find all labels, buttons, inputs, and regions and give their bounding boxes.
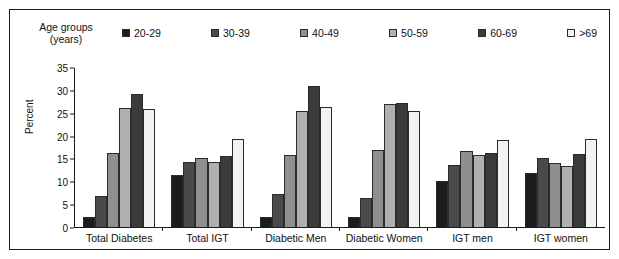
legend-title: Age groups (years) — [10, 21, 122, 45]
bar — [585, 139, 597, 227]
bar — [119, 108, 131, 227]
legend-item: 60-69 — [478, 27, 517, 39]
bar — [131, 94, 143, 227]
x-axis-group-tick — [162, 227, 163, 231]
bar — [525, 173, 537, 227]
x-axis-category-label: Total Diabetes — [75, 232, 163, 248]
bar — [220, 156, 232, 227]
bar — [384, 104, 396, 227]
x-axis-category-label: Diabetic Men — [252, 232, 340, 248]
bar-chart-figure: Age groups (years) 20-2930-3940-4950-596… — [0, 0, 619, 259]
bar — [183, 162, 195, 227]
x-axis-category-label: IGT men — [428, 232, 516, 248]
legend-item: >69 — [567, 27, 597, 39]
y-tick-label: 25 — [57, 108, 68, 119]
bar-group-bars — [436, 68, 508, 227]
legend-item-label: 40-49 — [312, 27, 339, 39]
axes — [74, 68, 605, 228]
x-axis-category-label: IGT women — [517, 232, 605, 248]
bar-group — [517, 68, 605, 227]
bar — [436, 181, 448, 227]
y-tick-label: 10 — [57, 177, 68, 188]
bar — [232, 139, 244, 227]
bar — [143, 109, 155, 227]
legend-item-label: 50-59 — [401, 27, 428, 39]
bar — [171, 175, 183, 227]
legend-swatch-icon — [300, 29, 308, 37]
legend-item: 40-49 — [300, 27, 339, 39]
y-tick-label: 20 — [57, 131, 68, 142]
legend-item-label: 60-69 — [490, 27, 517, 39]
bar — [208, 162, 220, 227]
bar — [284, 155, 296, 227]
x-axis-categories: Total DiabetesTotal IGTDiabetic MenDiabe… — [75, 232, 605, 248]
bar — [107, 153, 119, 228]
bar-group-bars — [525, 68, 597, 227]
bar-group-bars — [83, 68, 155, 227]
bar — [83, 217, 95, 227]
bar — [308, 86, 320, 227]
legend-item-label: >69 — [579, 27, 597, 39]
legend-title-line2: (years) — [10, 33, 122, 45]
bar — [272, 194, 284, 227]
y-axis-label: Percent — [24, 100, 35, 134]
legend-swatch-icon — [122, 29, 130, 37]
chart-legend: Age groups (years) 20-2930-3940-4950-596… — [10, 14, 609, 52]
bar — [460, 151, 472, 227]
bar — [561, 166, 573, 227]
y-axis-ticks: 05101520253035 — [40, 68, 74, 228]
bar — [497, 140, 509, 227]
y-tick-label: 5 — [62, 200, 68, 211]
legend-item: 50-59 — [389, 27, 428, 39]
x-axis-category-label: Diabetic Women — [340, 232, 428, 248]
bar-group — [340, 68, 428, 227]
legend-swatch-icon — [389, 29, 397, 37]
plot-area: Percent 05101520253035 Total DiabetesTot… — [10, 54, 609, 249]
bar-group-bars — [348, 68, 420, 227]
y-tick-label: 30 — [57, 85, 68, 96]
bar — [408, 111, 420, 227]
bar-group — [163, 68, 251, 227]
legend-item-label: 30-39 — [223, 27, 250, 39]
x-axis-group-tick — [516, 227, 517, 231]
bar — [195, 158, 207, 227]
y-tick-label: 0 — [62, 223, 68, 234]
legend-item: 30-39 — [211, 27, 250, 39]
x-axis-group-tick — [251, 227, 252, 231]
bar-groups — [75, 68, 605, 227]
bar-group — [428, 68, 516, 227]
bar-group-bars — [171, 68, 243, 227]
legend-item-label: 20-29 — [134, 27, 161, 39]
legend-entries: 20-2930-3940-4950-5960-69>69 — [122, 27, 609, 39]
bar — [485, 153, 497, 227]
x-axis-group-tick — [339, 227, 340, 231]
bar — [573, 154, 585, 227]
bar-group — [75, 68, 163, 227]
bar — [448, 165, 460, 227]
legend-title-line1: Age groups — [10, 21, 122, 33]
y-tick-label: 35 — [57, 63, 68, 74]
y-tick-label: 15 — [57, 154, 68, 165]
bar — [95, 196, 107, 227]
legend-item: 20-29 — [122, 27, 161, 39]
bar-group — [252, 68, 340, 227]
bar — [396, 103, 408, 227]
legend-swatch-icon — [211, 29, 219, 37]
x-axis-group-tick — [427, 227, 428, 231]
bar — [320, 107, 332, 227]
legend-swatch-icon — [478, 29, 486, 37]
bar — [296, 111, 308, 227]
bar — [549, 163, 561, 228]
bar — [348, 217, 360, 227]
bar — [260, 217, 272, 227]
bar — [473, 155, 485, 227]
bar — [537, 158, 549, 227]
bar — [372, 150, 384, 227]
bar — [360, 198, 372, 227]
x-axis-category-label: Total IGT — [163, 232, 251, 248]
legend-swatch-icon — [567, 29, 575, 37]
bar-group-bars — [260, 68, 332, 227]
